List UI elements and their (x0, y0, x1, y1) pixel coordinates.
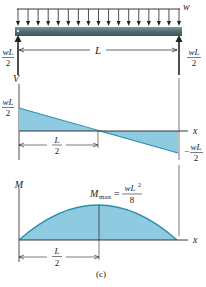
left-reaction-arrow (15, 35, 22, 75)
svg-text:wL: wL (2, 97, 13, 107)
svg-text:2: 2 (55, 146, 60, 156)
svg-text:M: M (89, 188, 99, 199)
svg-text:2: 2 (194, 153, 199, 163)
v-axis-label: V (13, 73, 21, 84)
beam-diagram: w wL 2 wL 2 L V x wL (0, 0, 206, 287)
span-label: L (94, 44, 101, 56)
moment-max-label: M max = wL 2 8 (89, 182, 142, 205)
svg-text:wL: wL (190, 142, 201, 152)
shear-max-label: wL 2 (2, 97, 14, 118)
svg-text:2: 2 (55, 258, 60, 268)
right-reaction-arrow (176, 35, 183, 75)
svg-text:2: 2 (138, 182, 141, 188)
svg-text:2: 2 (6, 108, 11, 118)
svg-text:L: L (53, 135, 59, 145)
shear-diagram: V x wL 2 − wL 2 L 2 (2, 73, 203, 163)
right-reaction-label: wL 2 (187, 47, 201, 68)
shear-x-label: x (192, 125, 198, 136)
svg-text:2: 2 (6, 58, 11, 68)
svg-text:−: − (184, 146, 189, 156)
distributed-load (16, 9, 181, 26)
left-reaction-label: wL 2 (2, 47, 14, 68)
shear-min-label: − wL 2 (184, 142, 203, 163)
moment-half-span-dimension: L 2 (19, 240, 99, 268)
moment-x-label: x (192, 234, 198, 245)
load-label: w (183, 1, 190, 12)
svg-text:2: 2 (192, 58, 197, 68)
m-axis-label: M (14, 179, 24, 190)
svg-text:wL: wL (124, 183, 135, 193)
shear-half-span-dimension: L 2 (19, 131, 98, 156)
beam (15, 27, 182, 36)
svg-text:=: = (114, 188, 120, 199)
figure-caption: (c) (96, 269, 106, 279)
pin-icon (17, 30, 19, 32)
svg-text:wL: wL (2, 47, 13, 57)
svg-text:wL: wL (188, 47, 199, 57)
svg-text:8: 8 (130, 195, 135, 205)
moment-diagram: M x M max = wL 2 8 L 2 (14, 165, 198, 268)
load-arrows (16, 9, 181, 26)
svg-text:L: L (53, 246, 59, 256)
svg-text:max: max (99, 193, 112, 201)
span-dimension: L (19, 44, 177, 56)
